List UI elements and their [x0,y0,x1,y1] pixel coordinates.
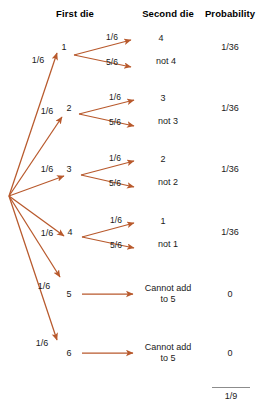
probability-value-4: 1/36 [221,227,239,237]
first-branch-prob-2: 1/6 [41,106,54,116]
second-branch-prob-2a: 1/6 [109,92,121,102]
second-branch-prob-2b: 5/6 [109,117,121,127]
second-die-outcome-1a: 4 [158,33,163,44]
branch-arrow-second-2a [79,100,134,114]
first-die-value-5: 5 [66,289,71,299]
first-branch-prob-5: 1/6 [38,281,51,291]
second-die-outcome-2a: 3 [160,93,165,104]
branch-arrow-second-3a [81,161,134,175]
branch-arrow-first-3 [9,176,64,196]
second-branch-prob-1a: 1/6 [106,32,118,42]
second-die-outcome-3a: 2 [160,154,165,165]
first-die-value-2: 2 [66,103,71,113]
first-die-value-6: 6 [66,348,71,358]
second-die-outcome-1b: not 4 [156,56,176,67]
first-branch-prob-6: 1/6 [36,338,49,348]
branch-arrow-first-6 [9,196,57,340]
branch-arrow-second-3b [81,175,134,187]
probability-value-2: 1/36 [221,103,239,113]
probability-value-3: 1/36 [221,164,239,174]
branch-arrow-second-4a [82,223,134,237]
branch-arrow-first-1 [9,53,57,196]
first-branch-prob-4: 1/6 [41,228,54,238]
second-branch-prob-4a: 1/6 [110,215,122,225]
branch-arrow-second-4b [82,237,134,248]
second-branch-prob-3a: 1/6 [109,153,121,163]
second-die-outcome-2b: not 3 [158,116,178,127]
second-die-outcome-5: Cannot add to 5 [140,283,196,305]
branch-arrow-second-1a [74,40,131,55]
first-die-value-4: 4 [67,227,72,237]
branch-arrow-first-2 [9,117,62,196]
second-branch-prob-3b: 5/6 [109,178,121,188]
second-branch-prob-4b: 5/6 [110,240,122,250]
probability-tree-diagram: First die Second die Probability [0,0,264,408]
branch-arrow-first-4 [9,196,64,236]
second-die-outcome-3b: not 2 [158,177,178,188]
second-branch-prob-1b: 5/6 [106,57,118,67]
second-die-outcome-6: Cannot add to 5 [140,342,196,364]
second-die-outcome-4a: 1 [160,216,165,227]
branch-arrow-second-1b [74,55,131,67]
branch-arrow-second-2b [79,114,134,126]
second-die-outcome-4b: not 1 [158,239,178,250]
total-divider-rule [212,387,250,388]
probability-value-6: 0 [227,348,232,358]
first-die-value-3: 3 [66,164,71,174]
first-branch-prob-3: 1/6 [41,164,54,174]
first-die-value-1: 1 [61,42,66,52]
probability-value-5: 0 [227,289,232,299]
probability-value-1: 1/36 [221,42,239,52]
total-probability-value: 1/9 [225,391,238,401]
first-branch-prob-1: 1/6 [32,55,45,65]
